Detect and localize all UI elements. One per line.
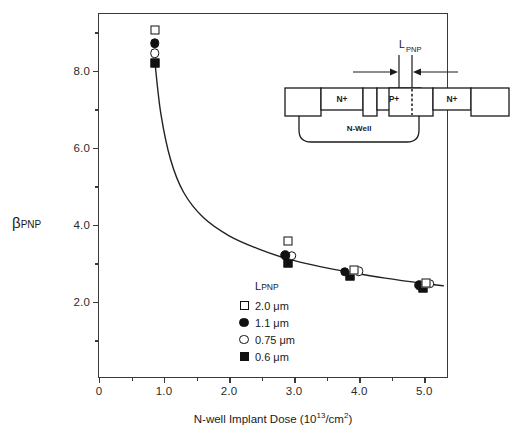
inset-arrow-right xyxy=(413,69,458,76)
x-tick-label: 4.0 xyxy=(351,385,368,397)
legend-marker-filled-circle xyxy=(239,318,249,328)
inset-dimension-label-subscript: PNP xyxy=(406,45,421,54)
x-axis-title-suffix: ) xyxy=(348,413,352,425)
data-point-filled-circle xyxy=(150,39,160,49)
legend: LPNP 2.0 μm1.1 μm0.75 μm0.6 μm xyxy=(233,280,295,365)
x-tick-label: 1.0 xyxy=(156,385,173,397)
legend-label: 0.6 μm xyxy=(255,351,289,363)
data-point-open-square xyxy=(150,26,159,35)
x-tick-label: 2.0 xyxy=(221,385,238,397)
legend-item: 2.0 μm xyxy=(233,297,295,314)
data-point-filled-circle xyxy=(280,250,290,260)
inset-dimension-label-main: L xyxy=(399,38,405,50)
x-tick-label: 3.0 xyxy=(286,385,303,397)
inset-device-cross-section: L PNP N-Well xyxy=(281,30,514,170)
legend-title-subscript: PNP xyxy=(261,282,278,292)
x-axis-title-exponent-13: 13 xyxy=(316,411,325,420)
legend-items: 2.0 μm1.1 μm0.75 μm0.6 μm xyxy=(233,297,295,365)
inset-box-right-contact xyxy=(471,88,509,116)
data-point-filled-circle xyxy=(340,267,350,277)
y-tick-label: 2.0 xyxy=(73,296,90,308)
y-axis-title-subscript: PNP xyxy=(21,219,42,230)
legend-item: 0.75 μm xyxy=(233,331,295,348)
x-axis-title: N-well Implant Dose (1013/cm2) xyxy=(194,411,352,425)
x-tick-label: 5.0 xyxy=(416,385,433,397)
inset-box-left-contact xyxy=(285,88,321,116)
legend-label: 2.0 μm xyxy=(255,300,289,312)
data-point-open-square xyxy=(421,278,430,287)
x-axis-title-prefix: N-well Implant Dose (10 xyxy=(194,413,317,425)
legend-label: 1.1 μm xyxy=(255,317,289,329)
x-axis-title-middle: /cm xyxy=(325,413,344,425)
data-point-open-square xyxy=(283,237,292,246)
legend-swatch-filled-circle xyxy=(233,318,255,328)
data-point-filled-square xyxy=(150,58,159,67)
legend-swatch-open-square xyxy=(233,301,255,310)
inset-label-n-plus-left: N+ xyxy=(336,94,347,104)
plot-area: 2.04.06.08.0 01.02.03.04.05.0 LPNP 2.0 μ… xyxy=(98,13,448,378)
y-tick-label: 8.0 xyxy=(73,65,90,77)
y-axis-title-main: β xyxy=(12,214,21,231)
y-tick-label: 4.0 xyxy=(73,219,90,231)
inset-n-well-label: N-Well xyxy=(347,124,372,133)
inset-arrow-left xyxy=(353,69,398,76)
y-tick-label: 6.0 xyxy=(73,142,90,154)
inset-label-p-plus: P+ xyxy=(389,94,400,104)
data-point-open-square xyxy=(350,266,359,275)
legend-item: 0.6 μm xyxy=(233,348,295,365)
inset-label-n-plus-right: N+ xyxy=(446,94,457,104)
x-tick-label: 0 xyxy=(96,385,103,397)
legend-marker-filled-square xyxy=(240,352,249,361)
y-axis-title: βPNP xyxy=(12,214,41,231)
legend-label: 0.75 μm xyxy=(255,334,295,346)
legend-marker-open-square xyxy=(240,301,249,310)
inset-box-field-oxide xyxy=(363,88,377,116)
legend-swatch-filled-square xyxy=(233,352,255,361)
legend-item: 1.1 μm xyxy=(233,314,295,331)
legend-marker-open-circle xyxy=(239,335,249,345)
data-point-open-circle xyxy=(150,49,160,59)
legend-swatch-open-circle xyxy=(233,335,255,345)
legend-title: LPNP xyxy=(255,280,295,292)
